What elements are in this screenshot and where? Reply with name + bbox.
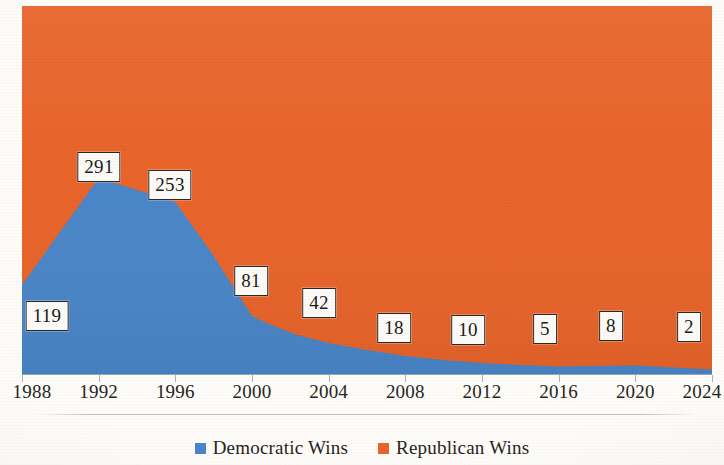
legend-swatch-democratic-icon — [195, 443, 206, 454]
legend-item-democratic[interactable]: Democratic Wins — [195, 437, 348, 459]
data-label-81: 81 — [234, 266, 268, 296]
x-axis-label-2020: 2020 — [616, 381, 655, 403]
x-axis-label-1988: 1988 — [13, 381, 52, 403]
data-label-18: 18 — [377, 313, 411, 343]
data-label-42: 42 — [302, 288, 336, 318]
legend-label-republican: Republican Wins — [396, 437, 529, 459]
x-axis-labels: 1988199219962000200420082012201620202024 — [0, 381, 724, 407]
chart-legend: Democratic Wins Republican Wins — [0, 434, 724, 462]
x-axis-label-1996: 1996 — [156, 381, 195, 403]
footer-separator-rule — [36, 414, 696, 415]
data-label-8: 8 — [599, 311, 623, 341]
x-axis-label-2008: 2008 — [386, 381, 425, 403]
data-label-2: 2 — [677, 312, 701, 342]
stacked-area-chart: 1988199219962000200420082012201620202024… — [0, 0, 724, 465]
x-axis-label-2012: 2012 — [463, 381, 502, 403]
data-label-253: 253 — [148, 170, 191, 200]
data-label-10: 10 — [451, 315, 485, 345]
x-axis-label-1992: 1992 — [79, 381, 118, 403]
data-label-5: 5 — [533, 314, 557, 344]
data-label-119: 119 — [26, 301, 69, 331]
x-axis-label-2024: 2024 — [683, 381, 722, 403]
x-axis-label-2004: 2004 — [309, 381, 348, 403]
data-label-291: 291 — [77, 152, 120, 182]
x-axis-label-2016: 2016 — [539, 381, 578, 403]
legend-item-republican[interactable]: Republican Wins — [378, 437, 529, 459]
legend-label-democratic: Democratic Wins — [213, 437, 348, 459]
x-axis-label-2000: 2000 — [233, 381, 272, 403]
legend-swatch-republican-icon — [378, 443, 389, 454]
